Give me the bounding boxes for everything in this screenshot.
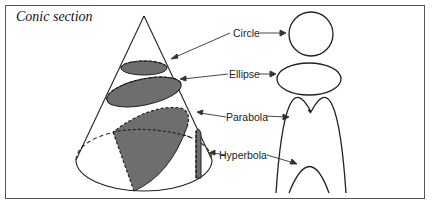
shape-ellipse <box>277 63 341 95</box>
label-circle: Circle <box>233 27 260 39</box>
ellipse-section <box>104 71 184 112</box>
hyperbola-section <box>196 129 201 178</box>
shape-hyperbola <box>289 167 329 194</box>
label-parabola: Parabola <box>226 111 268 123</box>
parabola-section <box>113 108 190 192</box>
label-arrows <box>259 30 297 164</box>
shape-circle <box>289 12 333 56</box>
label-ellipse: Ellipse <box>229 68 260 80</box>
shape-parabola <box>276 97 346 193</box>
label-hyperbola: Hyperbola <box>219 149 267 161</box>
cone-diagram <box>0 0 432 209</box>
circle-section <box>121 61 167 75</box>
